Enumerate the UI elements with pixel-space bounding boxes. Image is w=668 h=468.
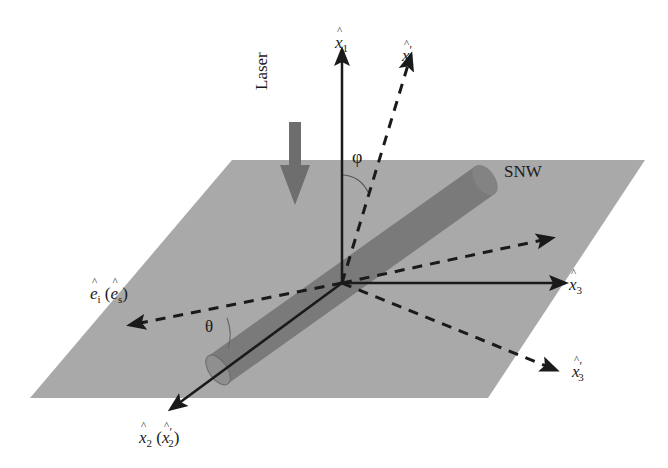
theta-label: θ <box>205 318 213 335</box>
x3-axis-label: x3 <box>569 276 582 296</box>
diagram-canvas: x1 x′1 Laser φ SNW x3 x′3 ei (es) θ x2 (… <box>0 0 668 468</box>
x3-prime-axis-label: x′3 <box>572 360 584 383</box>
x1-axis-label: x1 <box>335 34 348 54</box>
diagram-graphics <box>0 0 668 468</box>
phi-label: φ <box>352 148 362 166</box>
x1-prime-axis-label: x′1 <box>402 44 414 67</box>
polarization-label: ei (es) <box>90 285 128 305</box>
laser-label: Laser <box>252 52 272 90</box>
snw-label: SNW <box>504 163 542 180</box>
x2-axis-label: x2 (x′2) <box>139 426 179 449</box>
